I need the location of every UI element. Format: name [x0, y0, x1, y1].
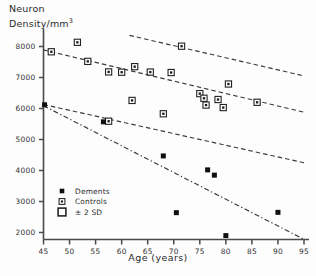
data-point-control [119, 69, 125, 75]
trend-line-plus-2sd [129, 35, 304, 76]
legend-marker-dot-icon [61, 200, 63, 202]
data-point-control [132, 64, 138, 70]
data-point-dement [101, 119, 106, 124]
chart-page: Neuron Density/mm3 200030004000500060007… [0, 0, 316, 276]
data-point-control [168, 69, 174, 75]
y-axis-tick-label: 2000 [15, 228, 35, 237]
data-point-dement [205, 167, 210, 172]
legend-item: ± 2 SD [58, 208, 102, 217]
y-axis-tick-label: 4000 [15, 166, 35, 175]
data-point-control [215, 96, 221, 102]
data-point-control [147, 69, 153, 75]
legend-marker-filled-square-icon [60, 189, 65, 194]
data-point-dement [275, 210, 280, 215]
legend-item-label: ± 2 SD [75, 208, 102, 217]
data-point-control [220, 104, 226, 110]
y-axis-tick-label: 7000 [15, 73, 35, 82]
legend-item: Dements [60, 187, 110, 196]
data-point-control [201, 95, 207, 101]
data-point-control [106, 118, 112, 124]
data-point-control [225, 81, 231, 87]
y-axis-tick-label: 8000 [15, 42, 35, 51]
y-axis-tick-label: 3000 [15, 197, 35, 206]
legend-marker-open-square-icon [58, 208, 66, 216]
x-axis-title: Age (years) [0, 252, 316, 263]
data-point-control [85, 58, 91, 64]
legend-item: Controls [59, 197, 107, 206]
trend-line-controls-regression [44, 50, 305, 112]
data-point-control [129, 97, 135, 103]
trend-line-minus-2sd [44, 104, 305, 162]
data-point-dement [161, 153, 166, 158]
data-point-control [254, 99, 260, 105]
scatter-plot: 2000300040005000600070008000455055606570… [0, 0, 316, 276]
legend-item-label: Controls [75, 197, 107, 206]
y-axis-tick-label: 5000 [15, 135, 35, 144]
data-point-dement [212, 173, 217, 178]
data-point-control [203, 102, 209, 108]
legend-item-label: Dements [75, 187, 110, 196]
data-point-control [74, 39, 80, 45]
data-point-control [178, 43, 184, 49]
data-point-control [160, 111, 166, 117]
data-point-dement [223, 233, 228, 238]
data-point-control [106, 69, 112, 75]
data-point-dement [42, 102, 47, 107]
trend-line-dements-regression [44, 106, 305, 240]
data-point-dement [174, 210, 179, 215]
y-axis-tick-label: 6000 [15, 104, 35, 113]
data-point-control [48, 49, 54, 55]
